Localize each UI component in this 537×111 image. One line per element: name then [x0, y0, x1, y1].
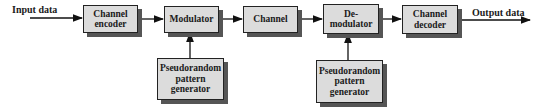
pn-generator-rx-block: Pseudorandom pattern generator	[316, 60, 383, 103]
pn-generator-tx-label: Pseudorandom pattern generator	[158, 63, 223, 95]
input-data-label: Input data	[12, 4, 57, 15]
channel-encoder-label: Channel encoder	[84, 9, 137, 30]
channel-label: Channel	[253, 14, 287, 25]
demodulator-block: De- modulator	[323, 4, 379, 34]
pn-generator-tx-block: Pseudorandom pattern generator	[157, 58, 224, 100]
channel-decoder-label: Channel decoder	[403, 9, 457, 30]
channel-decoder-block: Channel decoder	[402, 5, 458, 34]
channel-encoder-block: Channel encoder	[83, 5, 138, 33]
modulator-label: Modulator	[170, 14, 214, 25]
pn-generator-rx-label: Pseudorandom pattern generator	[317, 66, 382, 98]
channel-block: Channel	[243, 6, 298, 33]
modulator-block: Modulator	[164, 6, 219, 33]
demodulator-label: De- modulator	[327, 9, 375, 30]
output-data-label: Output data	[472, 7, 525, 18]
